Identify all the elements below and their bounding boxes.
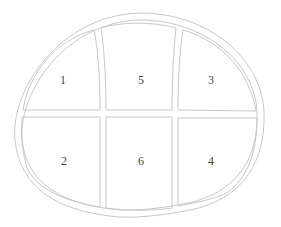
region-4[interactable] bbox=[178, 118, 257, 206]
region-5-label: 5 bbox=[138, 73, 144, 87]
region-6-label: 6 bbox=[138, 154, 144, 168]
partition-diagram: 1 5 3 2 6 4 bbox=[0, 0, 281, 227]
inner-boundary bbox=[22, 20, 257, 210]
region-2-label: 2 bbox=[61, 154, 67, 168]
region-1-label: 1 bbox=[60, 73, 66, 87]
region-4-label: 4 bbox=[208, 154, 214, 168]
region-5[interactable] bbox=[101, 23, 176, 110]
region-1[interactable] bbox=[23, 30, 100, 110]
region-3-label: 3 bbox=[208, 73, 214, 87]
region-3[interactable] bbox=[178, 30, 256, 111]
